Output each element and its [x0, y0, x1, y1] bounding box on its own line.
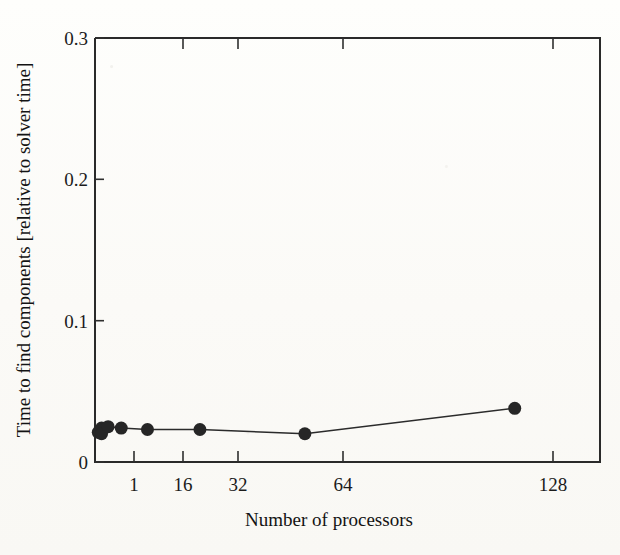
x-axis-title: Number of processors	[245, 509, 413, 530]
y-tick-label-0.1: 0.1	[64, 311, 88, 332]
y-axis-ticks	[95, 38, 104, 462]
data-point	[298, 427, 311, 440]
plot-frame	[95, 38, 600, 462]
y-tick-label-0.3: 0.3	[64, 28, 88, 49]
y-tick-label-0.2: 0.2	[64, 169, 88, 190]
x-tick-label-32: 32	[229, 474, 248, 495]
y-axis-title: Time to find components [relative to sol…	[13, 63, 34, 437]
y-tick-label-0: 0	[79, 452, 89, 473]
x-tick-label-1: 1	[129, 474, 139, 495]
data-point	[102, 420, 115, 433]
data-point	[193, 423, 206, 436]
chart-figure: 0 0.1 0.2 0.3 1 16 32 64 128 Number of p…	[0, 0, 620, 555]
x-tick-label-128: 128	[539, 474, 568, 495]
data-series	[92, 402, 521, 440]
data-point	[115, 422, 128, 435]
series-markers	[92, 402, 521, 440]
chart-svg: 0 0.1 0.2 0.3 1 16 32 64 128 Number of p…	[0, 0, 620, 555]
x-tick-label-64: 64	[334, 474, 354, 495]
data-point	[141, 423, 154, 436]
x-tick-label-16: 16	[174, 474, 193, 495]
data-point	[508, 402, 521, 415]
x-axis-ticks	[134, 38, 553, 462]
